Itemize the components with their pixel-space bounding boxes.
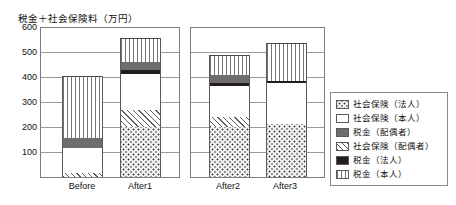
legend-item-shakai-hojin: 社会保険（法人） <box>336 97 443 111</box>
legend-item-zeikin-haigu: 税金（配偶者） <box>336 125 443 139</box>
bar-segment-shakai-honin <box>209 86 250 117</box>
bar-before[interactable] <box>62 76 103 177</box>
plot-panel-left <box>40 27 180 178</box>
bar-segment-zeikin-honin <box>62 76 103 138</box>
legend-swatch-icon <box>336 100 349 109</box>
bar-segment-shakai-haigu <box>62 173 103 178</box>
chart-legend: 社会保険（法人） 社会保険（本人） 税金（配偶者） 社会保険（配偶者） 税金（法… <box>330 92 448 186</box>
legend-item-label: 社会保険（本人） <box>353 114 425 123</box>
stacked-bar-chart: 税金＋社会保険料（万円） 600 500 400 300 200 100 <box>0 0 456 205</box>
legend-swatch-icon <box>336 114 349 123</box>
legend-swatch-icon <box>336 156 349 165</box>
legend-item-label: 税金（法人） <box>353 156 407 165</box>
legend-item-label: 社会保険（配偶者） <box>353 142 434 151</box>
legend-swatch-icon <box>336 128 349 137</box>
x-tick-label-after1: After1 <box>99 181 181 191</box>
bar-segment-zeikin-honin <box>209 55 250 75</box>
bar-after2[interactable] <box>209 55 250 177</box>
y-tick-label: 400 <box>11 72 37 82</box>
bar-segment-zeikin-honin <box>266 43 307 81</box>
bar-segment-zeikin-haigu <box>120 62 161 70</box>
bar-segment-shakai-hojin <box>266 124 307 178</box>
legend-item-label: 社会保険（法人） <box>353 100 425 109</box>
bar-segment-shakai-hojin <box>209 127 250 177</box>
x-tick-label-after3: After3 <box>244 181 326 191</box>
legend-item-shakai-honin: 社会保険（本人） <box>336 111 443 125</box>
bar-segment-shakai-honin <box>120 74 161 110</box>
bar-segment-shakai-honin <box>266 83 307 124</box>
y-tick-label: 200 <box>11 122 37 132</box>
bar-segment-zeikin-haigu <box>209 75 250 83</box>
bar-segment-zeikin-haigu <box>62 138 103 148</box>
bar-segment-shakai-hojin <box>120 127 161 177</box>
y-tick-label: 500 <box>11 47 37 57</box>
legend-item-label: 税金（配偶者） <box>353 128 416 137</box>
legend-item-shakai-haigu: 社会保険（配偶者） <box>336 139 443 153</box>
legend-item-zeikin-honin: 税金（本人） <box>336 167 443 181</box>
bar-segment-shakai-haigu <box>209 117 250 127</box>
bar-segment-zeikin-honin <box>120 38 161 62</box>
y-tick-label: 600 <box>11 22 37 32</box>
y-axis: 600 500 400 300 200 100 <box>10 0 37 205</box>
legend-swatch-icon <box>336 170 349 179</box>
y-tick-label: 300 <box>11 97 37 107</box>
bar-segment-shakai-honin <box>62 148 103 173</box>
legend-item-label: 税金（本人） <box>353 170 407 179</box>
bar-segment-shakai-haigu <box>120 110 161 127</box>
bar-after3[interactable] <box>266 43 307 177</box>
plot-panel-right <box>190 27 325 178</box>
legend-item-zeikin-hojin: 税金（法人） <box>336 153 443 167</box>
legend-swatch-icon <box>336 142 349 151</box>
bar-after1[interactable] <box>120 38 161 177</box>
y-tick-label: 100 <box>11 147 37 157</box>
